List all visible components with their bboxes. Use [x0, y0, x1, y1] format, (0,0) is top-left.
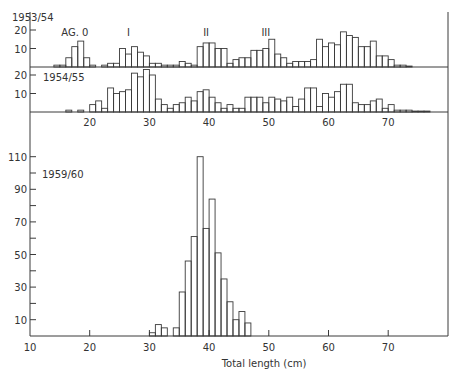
histogram-bar [108, 88, 114, 112]
y-tick-label: 10 [14, 315, 27, 326]
histogram-bar [66, 110, 72, 112]
histogram-bar [239, 58, 245, 67]
histogram-bar [60, 65, 66, 67]
histogram-bar [120, 92, 126, 112]
x-tick-label: 50 [262, 342, 275, 353]
x-tick-label: 70 [382, 342, 395, 353]
histogram-bar [221, 49, 227, 68]
histogram-bar [185, 97, 191, 112]
histogram-bar [346, 84, 352, 112]
y-tick-label: 30 [14, 282, 27, 293]
histogram-bar [388, 105, 394, 112]
histogram-bar [114, 94, 120, 113]
histogram-bar [293, 106, 299, 112]
histogram-bar [191, 101, 197, 112]
histogram-bar [54, 65, 60, 67]
histogram-bar [311, 88, 317, 112]
histogram-bar [358, 105, 364, 112]
histogram-bar [197, 47, 203, 67]
histogram-bar [215, 253, 221, 336]
histogram-bar [173, 65, 179, 67]
panel-1953-54: 10201953/54AG. 0IIIIII [12, 12, 448, 67]
histogram-bar [299, 99, 305, 112]
age-group-label: I [127, 27, 130, 38]
histogram-bar [364, 47, 370, 67]
histogram-bar [78, 41, 84, 67]
histogram-bar [155, 63, 161, 67]
x-tick-label: 60 [322, 342, 335, 353]
histogram-bar [245, 58, 251, 67]
y-tick-label: 20 [14, 70, 27, 81]
histogram-bar [167, 65, 173, 67]
histogram-bar [126, 90, 132, 112]
histogram-bar [245, 323, 251, 336]
y-tick-label: 110 [8, 152, 27, 163]
histogram-bar [78, 110, 84, 112]
histogram-bar [388, 60, 394, 67]
histogram-bar [149, 63, 155, 67]
histogram-bar [329, 97, 335, 112]
histogram-bar [245, 97, 251, 112]
histogram-bar [251, 50, 257, 67]
histogram-bar [323, 94, 329, 113]
histogram-bar [66, 58, 72, 67]
histogram-bar [239, 312, 245, 336]
x-tick-label: 10 [24, 342, 37, 353]
histogram-bar [191, 65, 197, 67]
histogram-bar [102, 65, 108, 67]
histogram-bar [263, 103, 269, 112]
histogram-bar [233, 108, 239, 112]
histogram-bar [167, 108, 173, 112]
histogram-bar [400, 65, 406, 67]
histogram-bar [233, 320, 239, 336]
histogram-bar [376, 56, 382, 67]
histogram-bar [340, 84, 346, 112]
histogram-bar [203, 90, 209, 112]
histogram-bar [352, 103, 358, 112]
x-tick-label: 20 [83, 342, 96, 353]
histogram-bar [155, 99, 161, 112]
histogram-bar [209, 199, 215, 336]
x-tick-label-mid: 50 [262, 117, 275, 128]
panel-label: 1959/60 [42, 169, 84, 180]
histogram-bar [90, 105, 96, 112]
panel-1959-60: 10305070901101959/60 [8, 112, 448, 336]
histogram-bar [137, 77, 143, 112]
histogram-bar [340, 32, 346, 67]
histogram-bar [197, 92, 203, 112]
histogram-bar [269, 39, 275, 67]
histogram-bar [203, 228, 209, 336]
histogram-bar [197, 157, 203, 336]
histogram-bar [179, 61, 185, 67]
histogram-bar [191, 237, 197, 336]
histogram-bar [227, 302, 233, 336]
histogram-bar [346, 36, 352, 67]
x-tick-label-mid: 60 [322, 117, 335, 128]
histogram-bar [239, 108, 245, 112]
histogram-bar [161, 328, 167, 336]
y-tick-label: 50 [14, 250, 27, 261]
histogram-bar [305, 88, 311, 112]
histogram-bar [120, 49, 126, 68]
histogram-bar [293, 61, 299, 67]
histogram-bar [376, 99, 382, 112]
histogram-bar [173, 105, 179, 112]
histogram-bar [90, 65, 96, 67]
histogram-bar [131, 73, 137, 112]
histogram-bar [257, 97, 263, 112]
histogram-bar [179, 292, 185, 336]
panel-1954-55: 10201954/55 [14, 67, 448, 112]
histogram-bar [382, 108, 388, 112]
y-tick-label: 70 [14, 217, 27, 228]
histogram-bar [299, 61, 305, 67]
histogram-bar [173, 328, 179, 336]
x-tick-label-mid: 20 [83, 117, 96, 128]
histogram-bar [394, 110, 400, 112]
histogram-bar [352, 37, 358, 67]
histogram-bar [329, 43, 335, 67]
histogram-bar [257, 50, 263, 67]
histogram-bar [161, 65, 167, 67]
histogram-bar [281, 101, 287, 112]
histogram-bar [108, 63, 114, 67]
histogram-bar [221, 279, 227, 336]
